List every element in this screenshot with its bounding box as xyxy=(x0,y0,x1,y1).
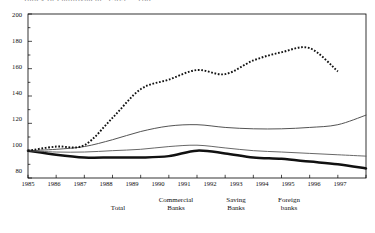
legend-label-line2: banks xyxy=(266,204,312,212)
legend-label-line2: Banks xyxy=(148,204,204,212)
legend-item-total[interactable]: Total xyxy=(96,204,140,212)
y-tick-marks xyxy=(28,14,32,178)
chart-legend: Total Commercial Banks Saving Banks Fore… xyxy=(0,196,375,233)
series-lines xyxy=(28,47,366,168)
x-tick-marks xyxy=(28,175,366,178)
chart-figure: Index of employment, 1985 = 100 200 180 … xyxy=(0,0,375,233)
legend-label-line2: Banks xyxy=(214,204,258,212)
legend-label-line1: Total xyxy=(96,204,140,212)
series-line-foreign-banks xyxy=(28,47,338,151)
legend-swatches xyxy=(0,196,375,202)
